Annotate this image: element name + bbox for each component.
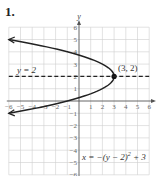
vertex-label: (3, 2) <box>118 63 138 73</box>
y-tick-label: 3 <box>74 61 78 69</box>
x-axis-arrow-icon <box>151 99 156 103</box>
x-tick-label: 1 <box>89 103 93 111</box>
y-tick-label: 5 <box>74 36 78 44</box>
y-tick-label: −1 <box>70 110 78 118</box>
equation-tail: + 3 <box>131 152 147 162</box>
x-tick-label: 2 <box>101 103 105 111</box>
y-tick-label: −4 <box>70 147 78 155</box>
x-tick-label: 3 <box>112 103 116 111</box>
parabola-graph: −6−5−4−3−2−1123456−6−5−4−3−2−1123456 y (… <box>0 0 156 176</box>
x-tick-label: 5 <box>136 103 140 111</box>
y-tick-label: 1 <box>74 85 78 93</box>
y-tick-label: −2 <box>70 122 78 130</box>
y-axis-label: y <box>76 12 81 21</box>
equation-label: x = −(y − 2)2 + 3 <box>81 151 146 162</box>
x-tick-label: 6 <box>147 103 151 111</box>
y-tick-label: −5 <box>70 159 78 167</box>
y-tick-label: 6 <box>74 24 78 32</box>
equation-main: x = −(y − 2) <box>81 152 128 162</box>
axis-of-symmetry-label: y = 2 <box>16 65 37 75</box>
x-tick-label: −6 <box>5 103 13 111</box>
y-tick-label: −6 <box>70 171 78 176</box>
y-tick-label: −3 <box>70 134 78 142</box>
x-tick-label: 4 <box>124 103 128 111</box>
x-tick-label: −5 <box>17 103 25 111</box>
